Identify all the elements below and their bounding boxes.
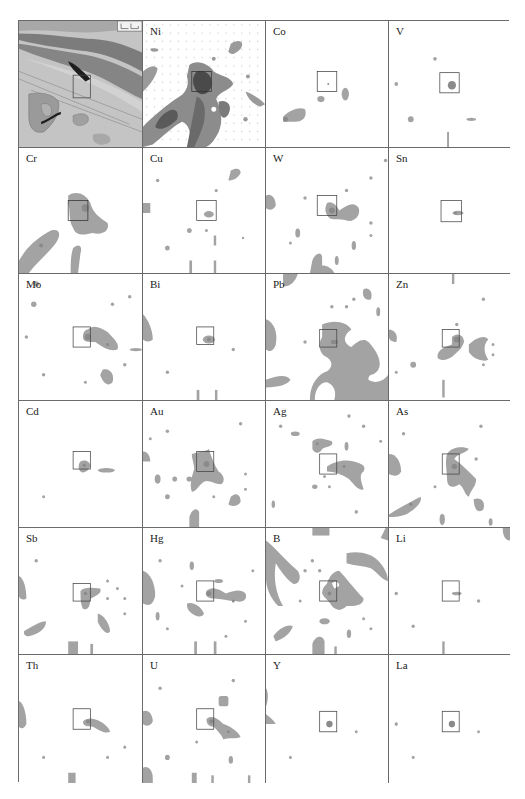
element-label: Cr [26, 153, 37, 164]
th-anomaly-map [19, 655, 142, 783]
element-label: Co [273, 26, 286, 37]
panel-mo: Mo [19, 274, 143, 401]
panel-li: Li [389, 528, 510, 655]
b-anomaly-map [266, 528, 388, 654]
y-anomaly-map [266, 655, 388, 783]
element-label: As [396, 406, 408, 417]
panel-sn: Sn [389, 148, 510, 274]
geologic-map [19, 21, 142, 147]
element-label: U [150, 660, 158, 671]
element-label: Sn [396, 153, 408, 164]
element-label: Zn [396, 279, 408, 290]
panel-cu: Cu [143, 148, 266, 274]
element-label: Ag [273, 406, 286, 417]
ag-anomaly-map [266, 401, 388, 527]
element-label: Cd [26, 406, 39, 417]
panel-y: Y [266, 655, 389, 783]
panel-as: As [389, 401, 510, 528]
element-label: Th [26, 660, 38, 671]
element-label: Au [150, 406, 163, 417]
element-label: Hg [150, 533, 163, 544]
w-anomaly-map [266, 148, 388, 273]
co-anomaly-map [266, 21, 388, 147]
element-label: Cu [150, 153, 163, 164]
panel-geologic-map [19, 21, 143, 148]
ni-anomaly-map [143, 21, 265, 147]
element-label: B [273, 533, 280, 544]
element-label: Sb [26, 533, 38, 544]
cr-anomaly-map [19, 148, 142, 273]
element-label: Y [273, 660, 281, 671]
sn-anomaly-map [389, 148, 510, 273]
element-label: Li [396, 533, 406, 544]
element-label: Mo [26, 279, 41, 290]
cu-anomaly-map [143, 148, 265, 273]
panel-v: V [389, 21, 510, 148]
panel-ni: Ni [143, 21, 266, 148]
study-area-box [317, 71, 337, 91]
zn-anomaly-map [389, 274, 510, 400]
mo-anomaly-map [19, 274, 142, 400]
panel-hg: Hg [143, 528, 266, 655]
li-anomaly-map [389, 528, 510, 654]
panel-cd: Cd [19, 401, 143, 528]
pb-anomaly-map [266, 274, 388, 400]
hg-anomaly-map [143, 528, 265, 654]
study-area-box [197, 201, 217, 221]
panel-bi: Bi [143, 274, 266, 401]
panel-u: U [143, 655, 266, 783]
panel-pb: Pb [266, 274, 389, 401]
panel-co: Co [266, 21, 389, 148]
study-area-box [442, 581, 459, 601]
cd-anomaly-map [19, 401, 142, 527]
as-anomaly-map [389, 401, 510, 527]
element-label: V [396, 26, 404, 37]
panel-ag: Ag [266, 401, 389, 528]
au-anomaly-map [143, 401, 265, 527]
panel-zn: Zn [389, 274, 510, 401]
v-anomaly-map [389, 21, 510, 147]
u-anomaly-map [143, 655, 265, 783]
panel-w: W [266, 148, 389, 274]
la-anomaly-map [389, 655, 510, 783]
panel-sb: Sb [19, 528, 143, 655]
panel-la: La [389, 655, 510, 783]
panel-cr: Cr [19, 148, 143, 274]
bi-anomaly-map [143, 274, 265, 400]
element-map-grid: Ni Co V [18, 20, 509, 782]
element-label: W [273, 153, 283, 164]
element-label: Ni [150, 26, 161, 37]
panel-th: Th [19, 655, 143, 783]
sb-anomaly-map [19, 528, 142, 654]
element-label: Bi [150, 279, 160, 290]
panel-au: Au [143, 401, 266, 528]
panel-b: B [266, 528, 389, 655]
element-label: Pb [273, 279, 285, 290]
element-label: La [396, 660, 408, 671]
